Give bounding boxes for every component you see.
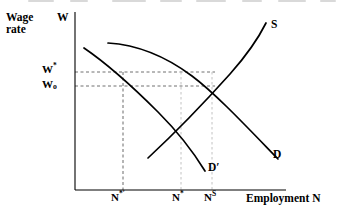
x-tick-n-supply: NS	[204, 192, 216, 204]
curve-demand-shifted	[84, 48, 205, 171]
curve-label-demand: D	[273, 148, 281, 160]
x-tick-n-star-prime: N*′	[111, 192, 125, 204]
y-tick-w-star: W*	[42, 64, 57, 76]
labour-market-diagram: Wage rate W W* Wo N*′ N* NS Employment N…	[0, 0, 351, 212]
x-tick-n-star-sup: *	[180, 189, 184, 198]
y-tick-w-zero-sub: o	[53, 82, 57, 91]
curve-demand	[108, 43, 278, 159]
curve-supply	[148, 23, 266, 158]
y-axis-title: Wage rate	[6, 11, 33, 35]
diagram-canvas	[0, 0, 351, 212]
x-tick-n-supply-main: N	[204, 191, 212, 203]
x-tick-n-star: N*	[172, 192, 184, 204]
x-tick-n-star-prime-main: N	[111, 191, 119, 203]
y-tick-w-zero: Wo	[42, 79, 57, 91]
x-tick-n-star-prime-sup: *′	[119, 189, 125, 198]
y-axis-title-line2: rate	[6, 23, 26, 35]
curve-label-demand-shifted: D′	[208, 161, 220, 173]
curve-label-supply: S	[271, 18, 277, 30]
y-axis-title-line1: Wage	[6, 11, 33, 23]
y-axis-symbol: W	[57, 11, 69, 23]
y-tick-w-zero-main: W	[42, 78, 53, 90]
curve-label-demand-shifted-prime: ′	[216, 161, 219, 173]
y-tick-w-star-main: W	[42, 63, 53, 75]
x-tick-n-supply-sup: S	[212, 189, 216, 198]
y-tick-w-star-sup: *	[53, 61, 57, 70]
x-axis-title: Employment N	[246, 192, 320, 204]
x-tick-n-star-main: N	[172, 191, 180, 203]
